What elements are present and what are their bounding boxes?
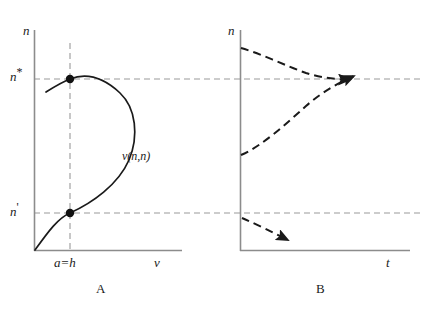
figure-container: n n* n' a=h v v(n,n) A n t B [0, 0, 421, 309]
panel-b-group [240, 30, 410, 251]
tick-label-n-star-superscript: * [17, 65, 23, 79]
panel-a-x-axis-label: v [154, 256, 160, 269]
panel-a-label: A [96, 282, 105, 295]
trajectory-below-n-star [241, 76, 354, 155]
panel-b-label: B [316, 282, 325, 295]
panel-b-y-axis-label: n [228, 24, 235, 37]
curve-label-v-n-n: v(n,n) [122, 150, 150, 162]
curve-v-n-n [35, 76, 135, 250]
panel-a-y-axis-label: n [23, 24, 30, 37]
curve-label-args: (n,n) [127, 149, 150, 163]
trajectory-above-n-star [241, 48, 350, 80]
tick-label-n-prime-mark: ' [17, 200, 19, 214]
tick-label-n-star: n* [10, 70, 23, 83]
marker-n-star [66, 75, 74, 83]
panel-b-x-axis-label: t [386, 256, 390, 269]
marker-n-prime [66, 209, 74, 217]
tick-label-a-equals-h: a=h [54, 256, 76, 269]
panel-a-group [34, 30, 421, 251]
tick-label-n-prime: n' [10, 205, 19, 218]
trajectory-below-n-prime [242, 218, 288, 240]
